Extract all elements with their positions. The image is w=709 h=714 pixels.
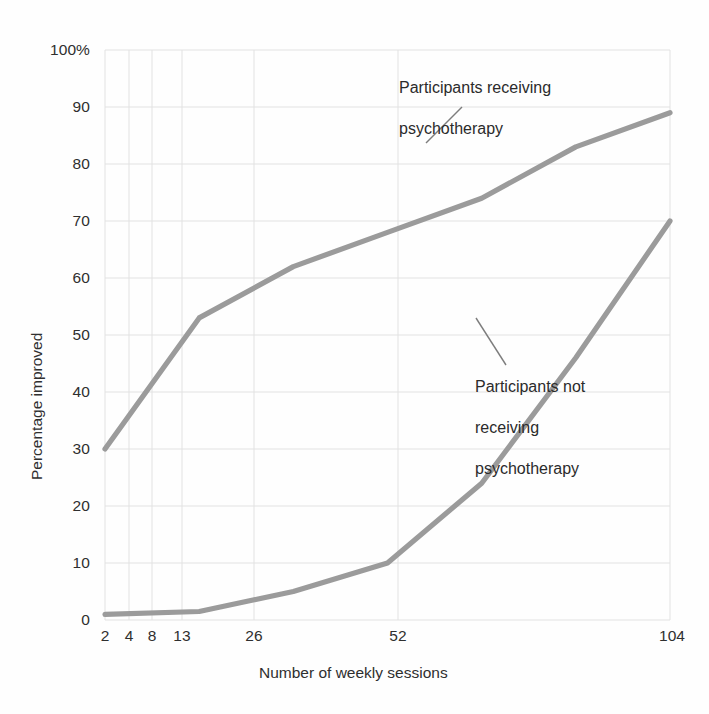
x-tick-label-26: 26 xyxy=(234,627,274,645)
y-tick-label-80: 80 xyxy=(20,155,90,173)
y-tick-label-10: 10 xyxy=(20,554,90,572)
plot-area xyxy=(0,0,709,714)
line-chart-figure: 100% 90 80 70 60 50 40 30 20 10 0 2 4 8 … xyxy=(0,0,709,714)
annotation-receiving-psychotherapy: Participants receiving psychotherapy xyxy=(399,58,551,160)
y-tick-label-0: 0 xyxy=(20,611,90,629)
x-tick-label-104: 104 xyxy=(650,627,694,645)
x-tick-label-13: 13 xyxy=(162,627,202,645)
y-tick-label-90: 90 xyxy=(20,98,90,116)
annotation-not-receiving-psychotherapy: Participants not receiving psychotherapy xyxy=(475,357,585,500)
y-tick-label-70: 70 xyxy=(20,212,90,230)
x-axis-title: Number of weekly sessions xyxy=(259,664,448,682)
y-tick-label-60: 60 xyxy=(20,269,90,287)
annotation-lower-line-1: Participants not xyxy=(475,377,585,397)
y-tick-label-20: 20 xyxy=(20,497,90,515)
x-tick-label-52: 52 xyxy=(378,627,418,645)
y-tick-label-100: 100% xyxy=(20,41,90,59)
annotation-lower-line-3: psychotherapy xyxy=(475,459,585,479)
annotation-lower-line-2: receiving xyxy=(475,418,585,438)
annotation-upper-line-1: Participants receiving xyxy=(399,78,551,98)
annotation-upper-line-2: psychotherapy xyxy=(399,119,551,139)
y-axis-title: Percentage improved xyxy=(28,333,46,480)
